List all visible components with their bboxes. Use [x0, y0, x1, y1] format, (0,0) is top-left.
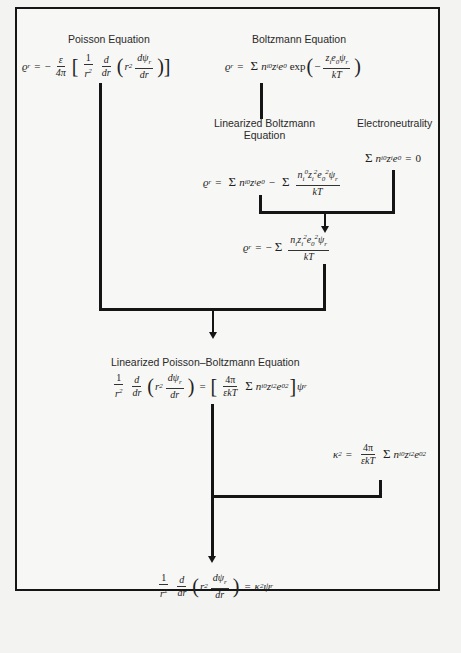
connector-boltzmann-down [260, 83, 263, 119]
connector-poisson-down [99, 83, 102, 310]
final-equation: 1r2 ddr ( r2 dψrdr ) = κ2ψr [155, 571, 273, 601]
poisson-equation-label: Poisson Equation [68, 33, 150, 45]
linearized-pb-label: Linearized Poisson–Boltzmann Equation [111, 356, 300, 368]
arrow-to-lpb [209, 332, 217, 339]
linearized-pb-equation: 1r2 ddr ( r2 dψrdr ) = [ 4πεkT Σ ni0 zi2… [110, 371, 307, 401]
connector-to-lpb [212, 309, 214, 334]
linearized-boltzmann-label: Linearized Boltzmann Equation [214, 117, 315, 141]
connector-electro-down [392, 170, 395, 213]
kappa-definition-equation: κ2 = 4πεkT Σ ni0 zi2 e02 [333, 440, 426, 468]
connector-kappa-join [211, 495, 382, 498]
reduced-charge-equation: ϱr = − Σ nizi2e02ψrkT [243, 233, 332, 261]
boltzmann-equation-label: Boltzmann Equation [252, 33, 346, 45]
diagram-frame [15, 7, 440, 591]
poisson-equation: ϱr = − ε4π [ 1r2 ddr ( r2 dψrdr )] [22, 52, 172, 80]
electroneutrality-label: Electroneutrality [357, 117, 432, 129]
linearized-boltzmann-equation: ϱr = Σ ni0 zi e0 − Σ ni0zi2e02ψrkT [203, 168, 343, 196]
boltzmann-equation: ϱr = Σ ni0 zi e0 exp (− zie0ψrkT ) [225, 52, 362, 80]
connector-reduced-down [323, 264, 326, 310]
arrow-to-reduced [321, 226, 329, 233]
arrow-to-final [208, 556, 216, 563]
electroneutrality-equation: Σ ni0 zi e0 = 0 [362, 150, 421, 166]
connector-join-horizontal [259, 211, 395, 214]
connector-lpb-down [211, 404, 214, 557]
